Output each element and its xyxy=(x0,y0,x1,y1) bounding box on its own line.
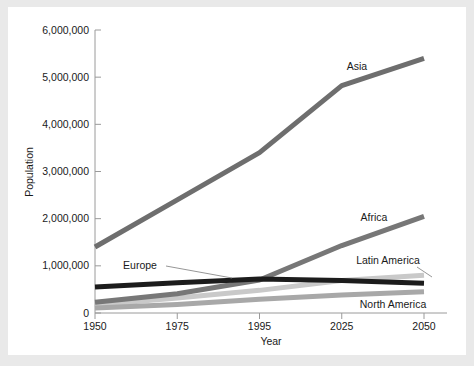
x-axis-title: Year xyxy=(260,335,282,347)
chart-page: 01,000,0002,000,0003,000,0004,000,0005,0… xyxy=(0,0,474,366)
series-label-latin-america: Latin America xyxy=(356,254,420,266)
population-line-chart: 01,000,0002,000,0003,000,0004,000,0005,0… xyxy=(0,0,474,366)
x-tick-labels: 19501975199520252050 xyxy=(83,320,436,332)
x-tick-label: 1975 xyxy=(166,320,190,332)
europe-leader xyxy=(166,266,232,278)
y-tick-label: 2,000,000 xyxy=(42,212,89,224)
series-label-africa: Africa xyxy=(361,211,388,223)
y-tick-label: 1,000,000 xyxy=(42,259,89,271)
y-tick-label: 3,000,000 xyxy=(42,165,89,177)
x-tick-label: 1995 xyxy=(248,320,272,332)
series-label-north-america: North America xyxy=(360,298,427,310)
y-tick-label: 4,000,000 xyxy=(42,118,89,130)
y-tick-labels: 01,000,0002,000,0003,000,0004,000,0005,0… xyxy=(42,24,89,319)
series-line-europe xyxy=(95,279,424,287)
series-label-europe: Europe xyxy=(123,259,157,271)
y-axis-title: Population xyxy=(23,147,35,197)
series-label-asia: Asia xyxy=(347,60,368,72)
y-tick-label: 5,000,000 xyxy=(42,71,89,83)
x-tick-marks xyxy=(95,313,424,319)
x-tick-label: 2025 xyxy=(330,320,354,332)
y-tick-label: 0 xyxy=(83,307,89,319)
y-tick-marks xyxy=(95,30,101,313)
y-tick-label: 6,000,000 xyxy=(42,24,89,36)
x-tick-label: 2050 xyxy=(412,320,436,332)
x-tick-label: 1950 xyxy=(83,320,107,332)
